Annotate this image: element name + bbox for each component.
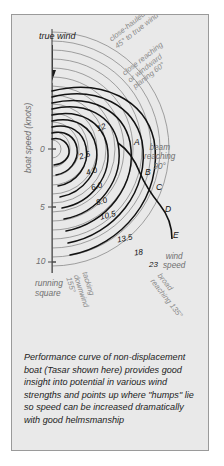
true-wind-label: true wind (39, 31, 76, 41)
hump-marker-c: C (156, 182, 162, 192)
curve-label-23: 23 (149, 260, 158, 269)
hump-marker-b: B (145, 167, 151, 177)
figure-caption: Performance curve of non-displacement bo… (24, 351, 200, 426)
hump-marker-a: A (134, 137, 140, 147)
hump-marker-d: D (165, 204, 171, 214)
running-square-label: running square (35, 279, 63, 298)
curve-label-18: 18 (133, 247, 143, 257)
y-tick-10: 10 (36, 257, 45, 267)
wind-speed-note: wind speed (163, 252, 185, 271)
polar-chart-area: true wind boat speed (knots) 0 5 10 clos… (12, 15, 208, 347)
y-tick-0: 0 (40, 145, 45, 155)
hump-marker-e: E (173, 230, 179, 240)
figure-panel: true wind boat speed (knots) 0 5 10 clos… (11, 14, 209, 451)
y-axis-label: boat speed (knots) (24, 93, 34, 183)
y-tick-5: 5 (40, 203, 45, 213)
